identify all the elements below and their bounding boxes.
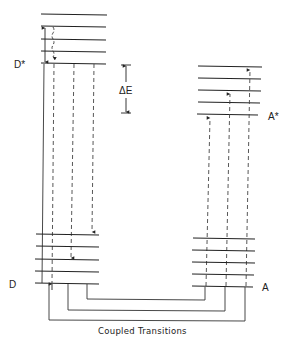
d-level bbox=[35, 271, 99, 272]
donor-connector-line bbox=[42, 64, 44, 283]
a-star-level bbox=[198, 66, 262, 67]
donor-excited-levels bbox=[41, 14, 107, 64]
d-level bbox=[36, 246, 99, 247]
coupling-connectors bbox=[49, 284, 245, 321]
d-level bbox=[36, 234, 99, 235]
a-level bbox=[192, 286, 253, 287]
label-energy-gap: ΔE bbox=[119, 85, 133, 96]
acceptor-ground-levels bbox=[192, 238, 255, 287]
a-level bbox=[192, 262, 255, 263]
absorption-transition bbox=[206, 118, 210, 286]
emission-transition bbox=[71, 64, 74, 258]
diagram-caption: Coupled Transitions bbox=[98, 326, 187, 336]
coupling-line-outer bbox=[49, 284, 245, 321]
label-donor-ground: D bbox=[9, 279, 16, 290]
d-level bbox=[35, 259, 99, 260]
a-level bbox=[192, 274, 254, 275]
coupling-line-inner bbox=[87, 284, 205, 300]
d-level bbox=[35, 283, 99, 284]
d-star-level bbox=[41, 63, 106, 64]
a-star-level bbox=[198, 78, 261, 79]
label-donor-excited: D* bbox=[14, 59, 25, 70]
label-acceptor-excited: A* bbox=[268, 111, 279, 122]
donor-ground-levels bbox=[35, 234, 99, 284]
a-star-level bbox=[198, 102, 260, 103]
relaxation-arrow-wavy bbox=[52, 27, 54, 57]
energy-transfer-diagram: D* ΔE D A* bbox=[0, 0, 288, 340]
d-star-level bbox=[41, 26, 106, 27]
d-star-level bbox=[41, 14, 107, 15]
absorption-transition bbox=[226, 94, 230, 286]
emission-transition bbox=[52, 64, 54, 283]
d-star-level bbox=[41, 39, 106, 40]
emission-transition bbox=[92, 64, 94, 232]
label-acceptor-ground: A bbox=[262, 282, 269, 293]
coupling-line-middle bbox=[68, 284, 225, 311]
a-star-level bbox=[198, 90, 261, 91]
a-level bbox=[192, 250, 255, 251]
a-level bbox=[193, 238, 255, 239]
d-star-level bbox=[41, 51, 106, 52]
energy-gap-indicator: ΔE bbox=[119, 65, 133, 113]
donor-emission-transitions bbox=[52, 64, 94, 283]
